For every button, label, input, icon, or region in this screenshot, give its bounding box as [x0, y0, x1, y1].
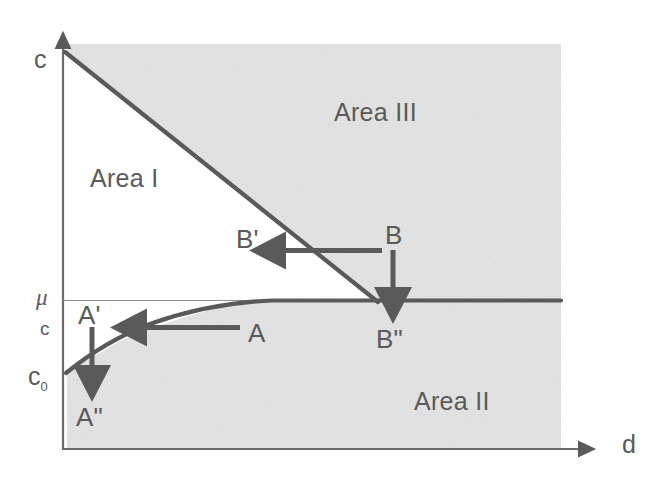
point-b-prime-label: B' — [236, 226, 259, 252]
area-1-label: Area I — [90, 166, 159, 191]
point-b-double-prime-label: B" — [376, 326, 403, 352]
point-a-label: A — [248, 320, 266, 346]
y-axis-label-c: c — [34, 47, 47, 72]
area-2-label: Area II — [414, 389, 490, 414]
y-axis-label-c0-subscript: 0 — [41, 379, 48, 394]
point-a-prime-label: A' — [78, 302, 101, 328]
y-axis-label-c0-base: c — [28, 362, 41, 390]
x-axis-label-d: d — [622, 432, 636, 457]
y-axis-label-c0: c0 — [28, 364, 48, 393]
y-axis-label-mu: μ — [36, 286, 48, 309]
economics-area-diagram: a downward sloping demand curve ting to … — [0, 0, 663, 479]
point-a-double-prime-label: A" — [76, 404, 103, 430]
y-axis-label-mu-denominator: c — [40, 319, 50, 338]
area-3-label: Area III — [334, 100, 417, 125]
point-b-label: B — [385, 222, 403, 248]
